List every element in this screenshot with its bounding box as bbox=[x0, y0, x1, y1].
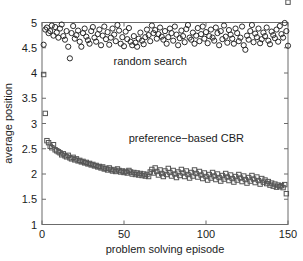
x-axis-ticks bbox=[42, 23, 288, 225]
data-point-circle bbox=[194, 33, 199, 38]
data-point-circle bbox=[256, 26, 261, 31]
data-point-circle bbox=[75, 28, 80, 33]
data-point-circle bbox=[98, 43, 103, 48]
plot-frame bbox=[42, 23, 288, 225]
data-point-circle bbox=[97, 27, 102, 32]
data-point-circle bbox=[126, 25, 131, 30]
figure-container: 050100150 11.522.533.544.55 random searc… bbox=[0, 0, 303, 261]
data-point-circle bbox=[192, 41, 197, 46]
data-point-circle bbox=[225, 40, 230, 45]
data-point-circle bbox=[248, 28, 253, 33]
y-tick-label: 4.5 bbox=[22, 42, 37, 54]
data-point-circle bbox=[108, 35, 113, 40]
data-point-circle bbox=[251, 40, 256, 45]
data-point-circle bbox=[169, 30, 174, 35]
y-axis-title: average position bbox=[2, 83, 14, 164]
series-annotation-1: random search bbox=[114, 55, 187, 67]
data-point-square bbox=[286, 0, 290, 4]
data-point-circle bbox=[195, 25, 200, 30]
data-point-circle bbox=[69, 30, 74, 35]
y-tick-label: 4 bbox=[31, 67, 37, 79]
x-tick-label: 100 bbox=[197, 228, 215, 240]
data-point-circle bbox=[131, 34, 136, 39]
data-point-circle bbox=[171, 38, 176, 43]
data-point-circle bbox=[120, 35, 125, 40]
data-point-circle bbox=[164, 41, 169, 46]
data-point-circle bbox=[179, 28, 184, 33]
series-annotation-2: preference−based CBR bbox=[129, 132, 244, 144]
data-point-circle bbox=[107, 42, 112, 47]
data-point-circle bbox=[56, 35, 61, 40]
data-point-circle bbox=[148, 39, 153, 44]
data-point-circle bbox=[115, 22, 120, 27]
x-tick-label: 50 bbox=[118, 228, 130, 240]
data-point-circle bbox=[79, 44, 84, 49]
data-point-circle bbox=[182, 40, 187, 45]
data-point-circle bbox=[277, 23, 282, 28]
data-point-circle bbox=[77, 39, 82, 44]
data-point-circle bbox=[176, 43, 181, 48]
data-point-circle bbox=[162, 28, 167, 33]
data-point-circle bbox=[231, 41, 236, 46]
data-point-circle bbox=[112, 32, 117, 37]
data-point-circle bbox=[82, 26, 87, 31]
data-point-circle bbox=[197, 39, 202, 44]
data-point-circle bbox=[243, 47, 248, 52]
data-point-circle bbox=[157, 25, 162, 30]
data-point-circle bbox=[138, 30, 143, 35]
data-point-circle bbox=[102, 24, 107, 29]
data-point-circle bbox=[110, 26, 115, 31]
data-point-circle bbox=[71, 23, 76, 28]
scatter-plot: 050100150 11.522.533.544.55 random searc… bbox=[0, 0, 303, 261]
data-point-square bbox=[43, 111, 47, 115]
data-point-circle bbox=[208, 27, 213, 32]
data-point-circle bbox=[105, 29, 110, 34]
data-point-circle bbox=[213, 25, 218, 30]
y-tick-label: 2.5 bbox=[22, 143, 37, 155]
y-tick-label: 2 bbox=[31, 168, 37, 180]
x-axis-tick-labels: 050100150 bbox=[39, 228, 297, 240]
data-point-circle bbox=[103, 37, 108, 42]
data-point-circle bbox=[249, 22, 254, 27]
y-tick-label: 1 bbox=[31, 219, 37, 231]
series-preference-based-cbr bbox=[41, 0, 290, 196]
data-point-circle bbox=[116, 28, 121, 33]
y-tick-label: 5 bbox=[31, 17, 37, 29]
y-tick-label: 1.5 bbox=[22, 193, 37, 205]
data-point-circle bbox=[264, 25, 269, 30]
data-point-circle bbox=[200, 24, 205, 29]
data-point-circle bbox=[113, 39, 118, 44]
y-axis-ticks bbox=[42, 23, 288, 225]
y-tick-label: 3 bbox=[31, 118, 37, 130]
data-point-circle bbox=[276, 39, 281, 44]
axes-box bbox=[42, 23, 288, 225]
data-point-circle bbox=[51, 33, 56, 38]
data-point-circle bbox=[64, 28, 69, 33]
data-point-circle bbox=[144, 27, 149, 32]
data-point-circle bbox=[217, 43, 222, 48]
data-point-circle bbox=[205, 41, 210, 46]
y-axis-tick-labels: 11.522.533.544.55 bbox=[22, 17, 37, 231]
data-point-circle bbox=[172, 24, 177, 29]
data-point-circle bbox=[67, 56, 72, 61]
y-tick-label: 3.5 bbox=[22, 92, 37, 104]
data-point-circle bbox=[66, 44, 71, 49]
series-annotations: random searchpreference−based CBR bbox=[114, 55, 244, 144]
data-point-circle bbox=[190, 30, 195, 35]
data-point-circle bbox=[239, 24, 244, 29]
x-tick-label: 0 bbox=[39, 228, 45, 240]
data-point-circle bbox=[221, 23, 226, 28]
x-tick-label: 150 bbox=[279, 228, 297, 240]
x-axis-title: problem solving episode bbox=[106, 243, 225, 255]
